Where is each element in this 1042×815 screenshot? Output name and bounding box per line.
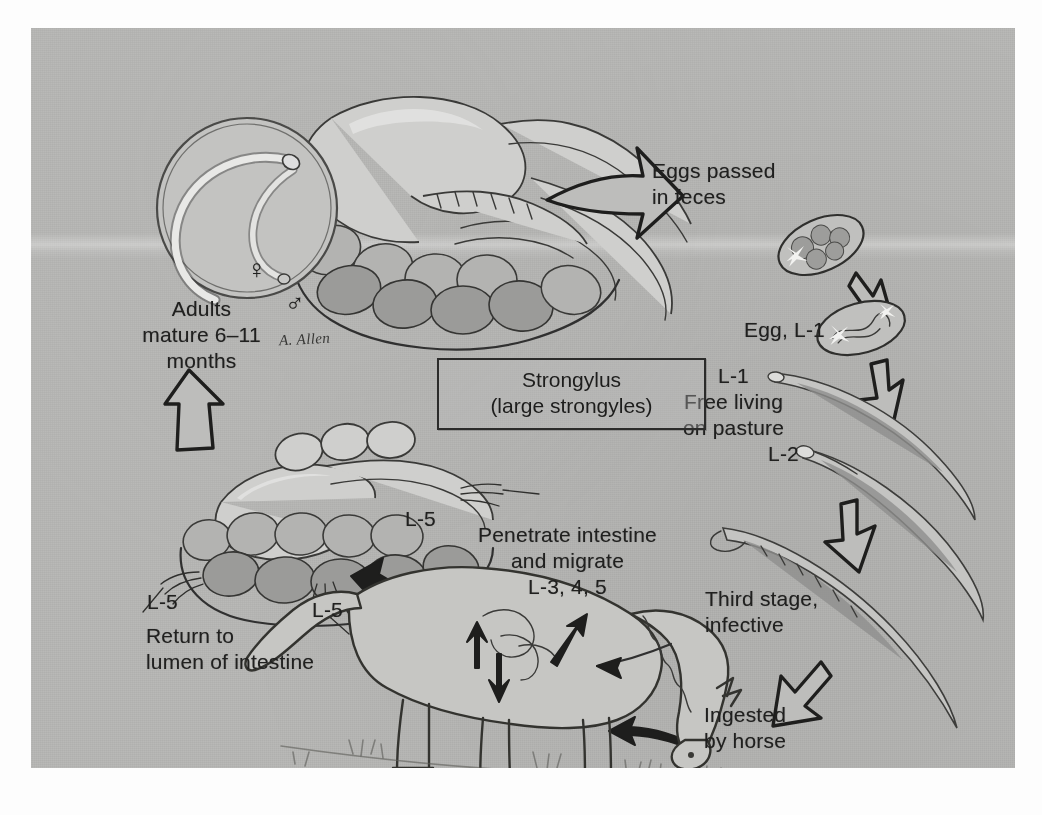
label-l5-right: L-5 (405, 506, 436, 532)
label-l2: L-2 (768, 441, 799, 467)
caption-line-1: Strongylus (459, 367, 684, 393)
ileum-segments (437, 192, 532, 219)
artist-signature: A. Allen (279, 330, 331, 350)
haustra-row-main (179, 509, 483, 606)
label-l5-lower-left: L-5 (147, 589, 178, 615)
label-l5-lower-mid: L-5 (312, 597, 343, 623)
arrow-down-l1-to-l2-icon (859, 360, 903, 424)
label-egg-l1: Egg, L-1 (744, 317, 825, 343)
second-stage-larva-illustration (795, 444, 983, 620)
arrow-curved-left-to-mouth-icon (609, 717, 703, 754)
label-third-stage-infective: Third stage, infective (705, 586, 818, 638)
figure-plate: Eggs passed in feces Egg, L-1 L-1 Free l… (31, 28, 1015, 768)
label-ingested-by-horse: Ingested by horse (704, 702, 786, 754)
scanned-page: Eggs passed in feces Egg, L-1 L-1 Free l… (0, 0, 1042, 815)
label-penetrate-intestine: Penetrate intestine and migrate L-3, 4, … (445, 522, 690, 600)
haustra-row-top (271, 420, 416, 476)
larval-migration-arrows (467, 610, 671, 702)
female-symbol-icon: ♀ (247, 256, 267, 282)
arrow-up-adults-icon (165, 370, 223, 450)
haustra-chain-upper (295, 218, 606, 334)
male-symbol-icon: ♂ (285, 290, 305, 316)
strongyle-egg-morula-illustration (769, 203, 872, 287)
strongyle-egg-with-l1-illustration (811, 292, 911, 365)
label-return-to-lumen: Return to lumen of intestine (146, 623, 314, 675)
label-eggs-passed: Eggs passed in feces (652, 158, 776, 210)
label-adults-mature: Adults mature 6–11 months (109, 296, 294, 374)
horse-gut-upper-drawing (290, 97, 691, 350)
pasture-grass (293, 740, 721, 768)
caption-box: Strongylus (large strongyles) (437, 358, 706, 430)
arrow-down-l2-to-l3-icon (825, 500, 875, 572)
arrow-left-to-intestine-icon (351, 558, 423, 620)
arrow-down-egg-to-l1-icon (849, 273, 893, 322)
scan-light-band (31, 233, 1015, 259)
caption-line-2: (large strongyles) (459, 393, 684, 419)
